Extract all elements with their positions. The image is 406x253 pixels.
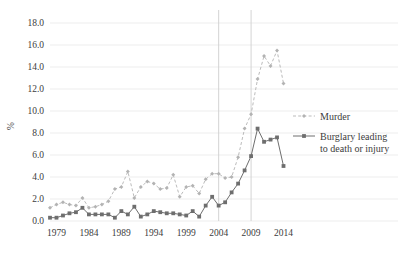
data-point-marker bbox=[94, 213, 98, 217]
data-point-marker bbox=[113, 216, 117, 220]
data-point-marker bbox=[230, 191, 234, 195]
data-point-marker bbox=[67, 203, 71, 207]
data-point-marker bbox=[171, 173, 175, 177]
x-tick-label: 2009 bbox=[242, 228, 261, 238]
data-point-marker bbox=[230, 175, 234, 179]
data-point-marker bbox=[74, 210, 78, 214]
data-point-marker bbox=[210, 195, 214, 199]
x-tick-label: 2014 bbox=[274, 228, 293, 238]
data-point-marker bbox=[55, 203, 59, 207]
x-tick-label: 2004 bbox=[209, 228, 228, 238]
data-point-marker bbox=[100, 203, 104, 207]
data-point-marker bbox=[236, 182, 240, 186]
legend-marker-murder bbox=[302, 114, 306, 118]
y-tick-label: 18.0 bbox=[27, 18, 44, 28]
data-point-marker bbox=[165, 211, 169, 215]
data-point-marker bbox=[48, 216, 52, 220]
legend-label-burglary-line1: Burglary leading bbox=[320, 131, 387, 142]
data-point-marker bbox=[204, 204, 208, 208]
data-point-marker bbox=[126, 170, 130, 174]
y-tick-label: 4.0 bbox=[32, 172, 44, 182]
legend-label-burglary-line2: to death or injury bbox=[320, 143, 389, 154]
data-point-marker bbox=[139, 215, 143, 219]
data-point-marker bbox=[100, 213, 104, 217]
series-line-murder bbox=[50, 51, 284, 208]
data-point-marker bbox=[74, 204, 78, 208]
y-tick-label: 2.0 bbox=[32, 194, 44, 204]
data-point-marker bbox=[282, 164, 286, 168]
legend-label-murder: Murder bbox=[320, 111, 351, 122]
data-point-marker bbox=[126, 213, 130, 217]
line-chart: 0.02.04.06.08.010.012.014.016.018.0%1979… bbox=[0, 0, 406, 253]
data-point-marker bbox=[275, 136, 279, 140]
series-line-burglary bbox=[50, 129, 284, 218]
data-point-marker bbox=[61, 214, 65, 218]
data-point-marker bbox=[256, 77, 260, 81]
data-point-marker bbox=[171, 211, 175, 215]
data-point-marker bbox=[269, 138, 273, 142]
x-tick-label: 1994 bbox=[144, 228, 163, 238]
data-point-marker bbox=[145, 179, 149, 183]
x-tick-label: 1979 bbox=[47, 228, 66, 238]
y-tick-label: 10.0 bbox=[27, 106, 44, 116]
data-point-marker bbox=[223, 200, 227, 204]
chart-container: 0.02.04.06.08.010.012.014.016.018.0%1979… bbox=[0, 0, 406, 253]
data-point-marker bbox=[236, 155, 240, 159]
data-point-marker bbox=[249, 112, 253, 116]
data-point-marker bbox=[93, 205, 97, 209]
data-point-marker bbox=[48, 206, 52, 210]
data-point-marker bbox=[152, 209, 156, 213]
data-point-marker bbox=[243, 169, 247, 173]
x-tick-label: 1989 bbox=[112, 228, 131, 238]
data-point-marker bbox=[139, 185, 143, 189]
data-point-marker bbox=[145, 213, 149, 217]
data-point-marker bbox=[119, 209, 123, 213]
data-point-marker bbox=[55, 216, 59, 220]
data-point-marker bbox=[113, 187, 117, 191]
legend-marker-burglary bbox=[302, 134, 306, 138]
data-point-marker bbox=[152, 182, 156, 186]
data-point-marker bbox=[106, 199, 110, 203]
data-point-marker bbox=[191, 209, 195, 213]
data-point-marker bbox=[106, 213, 110, 217]
data-point-marker bbox=[178, 195, 182, 199]
data-point-marker bbox=[243, 127, 247, 131]
data-point-marker bbox=[119, 185, 123, 189]
x-tick-label: 1999 bbox=[177, 228, 196, 238]
data-point-marker bbox=[184, 214, 188, 218]
data-point-marker bbox=[178, 213, 182, 217]
data-point-marker bbox=[282, 82, 286, 86]
y-axis-title: % bbox=[6, 122, 16, 130]
data-point-marker bbox=[81, 206, 85, 210]
data-point-marker bbox=[158, 210, 162, 214]
x-tick-label: 1984 bbox=[79, 228, 98, 238]
data-point-marker bbox=[256, 127, 260, 131]
data-point-marker bbox=[87, 213, 91, 217]
data-point-marker bbox=[165, 186, 169, 190]
data-point-marker bbox=[132, 205, 136, 209]
y-tick-label: 8.0 bbox=[32, 128, 44, 138]
y-tick-label: 16.0 bbox=[27, 40, 44, 50]
data-point-marker bbox=[61, 200, 65, 204]
y-tick-label: 0.0 bbox=[32, 216, 44, 226]
data-point-marker bbox=[217, 204, 221, 208]
data-point-marker bbox=[249, 154, 253, 158]
y-tick-label: 14.0 bbox=[27, 62, 44, 72]
y-tick-label: 6.0 bbox=[32, 150, 44, 160]
data-point-marker bbox=[262, 140, 266, 144]
data-point-marker bbox=[197, 215, 201, 219]
data-point-marker bbox=[68, 211, 72, 215]
y-tick-label: 12.0 bbox=[27, 84, 44, 94]
data-point-marker bbox=[275, 49, 279, 53]
